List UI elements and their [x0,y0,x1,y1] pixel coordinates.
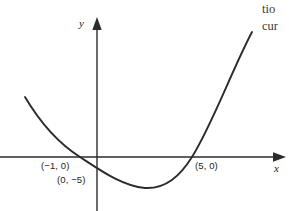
y-axis-arrow-icon [92,17,101,30]
clipped-margin-text: tio cur [256,0,290,35]
margin-text-line-1: tio [256,1,290,18]
graph-canvas [0,0,290,211]
label-root-right: (5, 0) [195,160,218,171]
y-axis-label: y [79,17,84,29]
label-y-intercept: (0, −5) [57,174,85,185]
parabola-figure: (−1, 0) (0, −5) (5, 0) x y tio cur [0,0,290,211]
label-root-left: (−1, 0) [41,160,69,171]
x-axis-label: x [274,162,279,174]
x-axis-arrow-icon [273,152,286,162]
margin-text-line-2: cur [256,18,290,35]
